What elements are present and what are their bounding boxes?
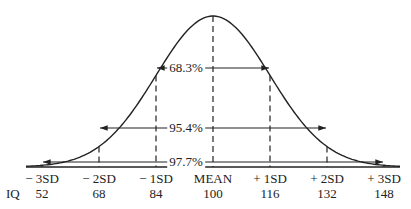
- iq-value: 68: [93, 187, 106, 201]
- iq-value: 116: [260, 187, 279, 201]
- iq-value: 132: [317, 187, 337, 201]
- x-tick-label: + 1SD: [253, 172, 287, 186]
- iq-label: IQ: [6, 187, 20, 201]
- iq-value: 52: [36, 187, 49, 201]
- iq-value: 84: [150, 187, 163, 201]
- x-tick-label: − 2SD: [82, 172, 116, 186]
- x-tick-label: MEAN: [194, 172, 232, 186]
- iq-value: 100: [203, 187, 223, 201]
- x-tick-label: + 2SD: [310, 172, 344, 186]
- interval-label: 97.7%: [167, 155, 205, 169]
- x-tick-label: + 3SD: [367, 172, 401, 186]
- interval-label: 95.4%: [167, 121, 205, 135]
- x-tick-label: − 1SD: [139, 172, 173, 186]
- x-tick-label: − 3SD: [25, 172, 59, 186]
- interval-label: 68.3%: [167, 61, 205, 75]
- iq-value: 148: [374, 187, 394, 201]
